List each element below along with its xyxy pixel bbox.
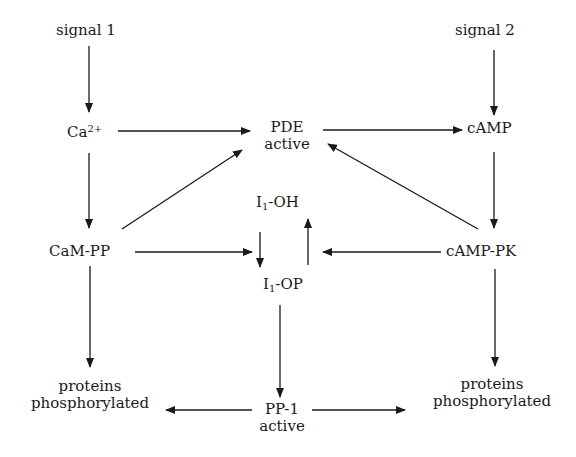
node-proteins-phosphorylated-left: proteins phosphorylated [10,378,170,412]
node-camp: cAMP [467,120,512,137]
node-proteins-phosphorylated-right: proteins phosphorylated [412,376,572,410]
node-i1-oh: I1-OH [256,194,299,215]
signaling-pathway-diagram: signal 1 signal 2 Ca2+ PDE active cAMP I… [0,0,576,457]
arrow-camppk-to-pde [328,144,478,229]
node-pp1-active: PP-1 active [250,401,314,435]
node-camp-pk: cAMP-PK [446,243,516,260]
node-cam-pp: CaM-PP [49,243,110,260]
arrow-campp-to-pde [122,150,242,229]
node-pde-active: PDE active [254,119,320,153]
node-signal-1: signal 1 [56,22,116,39]
node-signal-2: signal 2 [455,22,515,39]
node-ca2plus: Ca2+ [67,120,102,141]
node-i1-op: I1-OP [263,276,303,297]
